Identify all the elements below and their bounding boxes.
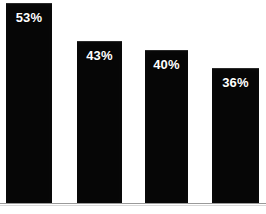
- plot-area: 53% 43% 40% 36%: [0, 0, 266, 203]
- bar-0: 53%: [6, 3, 52, 203]
- bar-0-value-label: 53%: [6, 11, 52, 24]
- bar-chart: 53% 43% 40% 36%: [0, 0, 266, 214]
- x-axis-baseline: [0, 203, 266, 204]
- bar-1-value-label: 43%: [77, 49, 122, 62]
- bar-3-value-label: 36%: [212, 76, 259, 89]
- bar-2-value-label: 40%: [145, 58, 188, 71]
- bar-1: 43%: [77, 41, 122, 203]
- bar-3: 36%: [212, 68, 259, 203]
- x-axis-baseline-shadow: [0, 205, 266, 206]
- bar-2: 40%: [145, 50, 188, 203]
